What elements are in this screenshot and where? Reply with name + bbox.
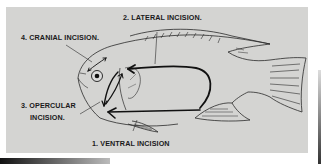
incision-arrows [88, 58, 210, 118]
cranial-incision-arrow [88, 58, 106, 71]
lateral-incision-arrow [128, 66, 210, 108]
ventral-incision-arrow [108, 110, 200, 112]
label-ventral-incision: 1. VENTRAL INCISION [92, 139, 170, 148]
label-opercular-incision-line2: INCISION. [30, 113, 65, 122]
label-opercular-incision-line1: 3. OPERCULAR [21, 101, 76, 110]
eye-icon [92, 71, 103, 82]
fish-incision-diagram: 2. LATERAL INCISION. 4. CRANIAL INCISION… [0, 0, 321, 164]
label-lateral-incision: 2. LATERAL INCISION. [123, 13, 202, 22]
label-cranial-incision: 4. CRANIAL INCISION. [21, 33, 99, 42]
